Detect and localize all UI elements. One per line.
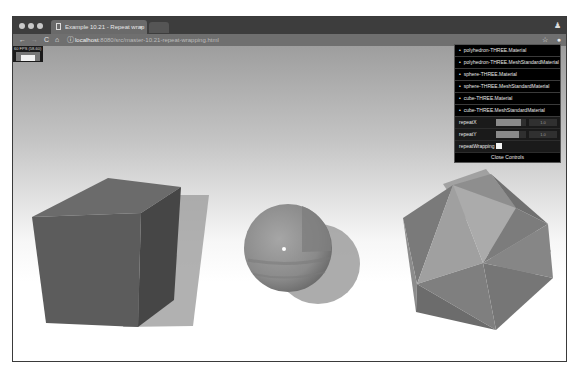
repeatwrapping-label: repeatWrapping [459,143,495,149]
webgl-canvas[interactable]: 60 FPS (58-60) [13,46,566,361]
folder-label: cube-THREE.Material [464,95,513,101]
browser-tab[interactable]: Example 10.21 - Repeat wrap × [51,20,147,34]
minimize-window-button[interactable] [28,23,34,29]
home-icon[interactable]: ⌂ [55,34,59,46]
folder-label: sphere-THREE.MeshStandardMaterial [464,83,550,89]
repeatx-slider[interactable] [496,119,526,126]
forward-arrow-icon[interactable]: → [31,34,38,46]
repeatx-input[interactable]: 1.0 [529,119,557,126]
maximize-window-button[interactable] [37,23,43,29]
folder-polyhedron-material[interactable]: •polyhedron-THREE.Material [455,45,560,57]
back-arrow-icon[interactable]: ← [19,34,26,46]
bullet-icon: • [459,107,461,113]
folder-cube-material[interactable]: •cube-THREE.Material [455,93,560,105]
folder-sphere-material[interactable]: •sphere-THREE.Material [455,69,560,81]
close-window-button[interactable] [19,23,25,29]
browser-window: Example 10.21 - Repeat wrap × ♟ ← → C ⌂ … [12,16,567,362]
document-icon [56,23,61,30]
site-info-icon[interactable]: ⓘ [67,34,74,46]
folder-label: polyhedron-THREE.Material [464,47,527,53]
folder-label: cube-THREE.MeshStandardMaterial [464,107,545,113]
folder-label: polyhedron-THREE.MeshStandardMaterial [464,59,559,65]
repeaty-control: repeatY 1.0 [455,129,560,141]
repeatwrapping-control: repeatWrapping [455,141,560,153]
folder-label: sphere-THREE.Material [464,71,517,77]
repeaty-label: repeatY [459,131,477,137]
bullet-icon: • [459,71,461,77]
repeaty-slider[interactable] [496,131,526,138]
url-host: localhost [75,37,99,43]
bullet-icon: • [459,59,461,65]
bullet-icon: • [459,47,461,53]
reload-icon[interactable]: C [44,34,49,46]
new-tab-button[interactable] [149,22,169,33]
folder-polyhedron-standard-material[interactable]: •polyhedron-THREE.MeshStandardMaterial [455,57,560,69]
title-bar: Example 10.21 - Repeat wrap × ♟ [13,17,566,34]
tab-close-icon[interactable]: × [139,20,143,34]
address-bar[interactable]: localhost:8080/src/master-10.21-repeat-w… [75,34,219,46]
bullet-icon: • [459,95,461,101]
close-controls-button[interactable]: Close Controls [455,153,560,162]
repeaty-input[interactable]: 1.0 [529,131,557,138]
profile-icon[interactable]: ♟ [554,21,560,30]
dat-gui-controls: •polyhedron-THREE.Material •polyhedron-T… [454,44,561,163]
bullet-icon: • [459,83,461,89]
tab-title: Example 10.21 - Repeat wrap [65,24,144,30]
folder-cube-standard-material[interactable]: •cube-THREE.MeshStandardMaterial [455,105,560,117]
repeatx-label: repeatX [459,119,477,125]
repeatx-control: repeatX 1.0 [455,117,560,129]
url-path: :8080/src/master-10.21-repeat-wrapping.h… [99,37,219,43]
repeaty-slider-fill [496,131,519,138]
repeatwrapping-checkbox[interactable] [496,143,502,149]
repeatx-slider-fill [496,119,521,126]
folder-sphere-standard-material[interactable]: •sphere-THREE.MeshStandardMaterial [455,81,560,93]
